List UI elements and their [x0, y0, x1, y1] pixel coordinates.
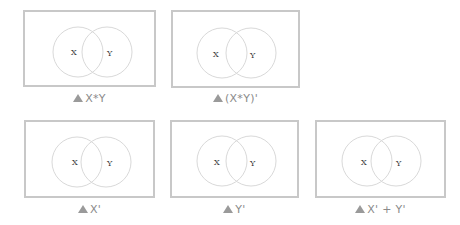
triangle-icon — [355, 205, 365, 213]
venn-diagram: X Y — [25, 12, 158, 89]
triangle-icon — [78, 205, 88, 213]
circle-label-y: Y — [106, 49, 113, 58]
circle-label-x: X — [72, 158, 78, 167]
caption: X*Y — [23, 92, 156, 105]
caption-text: Y' — [235, 203, 245, 216]
venn-box: X Y — [315, 120, 446, 198]
triangle-icon — [223, 205, 233, 213]
circle-label-y: Y — [249, 51, 256, 60]
circle-label-x: X — [71, 48, 77, 57]
caption: Y' — [170, 203, 299, 216]
venn-diagram: X Y — [317, 122, 448, 200]
caption-text: (X*Y)' — [225, 92, 258, 105]
venn-diagram: X Y — [26, 122, 157, 200]
caption: X' — [24, 203, 155, 216]
circle-label-y: Y — [249, 159, 256, 168]
triangle-icon — [213, 94, 223, 102]
circle-label-x: X — [214, 158, 220, 167]
venn-box: X Y — [23, 10, 156, 87]
circle-label-x: X — [361, 158, 367, 167]
caption: X' + Y' — [315, 203, 446, 216]
venn-diagram: X Y — [172, 122, 301, 200]
circle-label-x: X — [213, 50, 219, 59]
caption: (X*Y)' — [171, 92, 300, 105]
venn-box: X Y — [171, 10, 300, 88]
venn-box: X Y — [24, 120, 155, 198]
caption-text: X*Y — [85, 92, 106, 105]
venn-diagram: X Y — [173, 12, 302, 90]
triangle-icon — [73, 94, 83, 102]
circle-label-y: Y — [395, 159, 402, 168]
caption-text: X' + Y' — [367, 203, 406, 216]
venn-box: X Y — [170, 120, 299, 198]
circle-label-y: Y — [106, 159, 113, 168]
caption-text: X' — [90, 203, 101, 216]
